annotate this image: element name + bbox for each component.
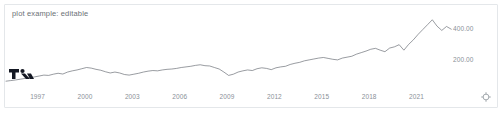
reset-target-icon[interactable] [481,92,491,102]
time-axis[interactable]: 199720002003200620092012201520182021 [0,92,502,106]
price-axis-tick: 400.00 [453,25,473,33]
tradingview-logo[interactable] [9,66,35,82]
plot-area[interactable] [6,14,456,90]
price-axis-tick: 200.00 [453,56,473,64]
time-axis-tick: 2003 [125,92,140,101]
price-series-chart[interactable] [6,14,456,90]
time-axis-tick: 2006 [172,92,187,101]
chart-title: plot example: editable [12,9,88,19]
price-axis[interactable]: 400.00200.00 [453,14,497,90]
time-axis-tick: 2015 [314,92,329,101]
time-axis-tick: 2000 [78,92,93,101]
chart-widget: plot example: editable 400.00200.00 1997… [0,0,502,120]
time-axis-tick: 2009 [220,92,235,101]
time-axis-tick: 2021 [409,92,424,101]
time-axis-tick: 2018 [362,92,377,101]
time-axis-tick: 2012 [267,92,282,101]
price-series-line [6,20,451,81]
time-axis-tick: 1997 [30,92,45,101]
